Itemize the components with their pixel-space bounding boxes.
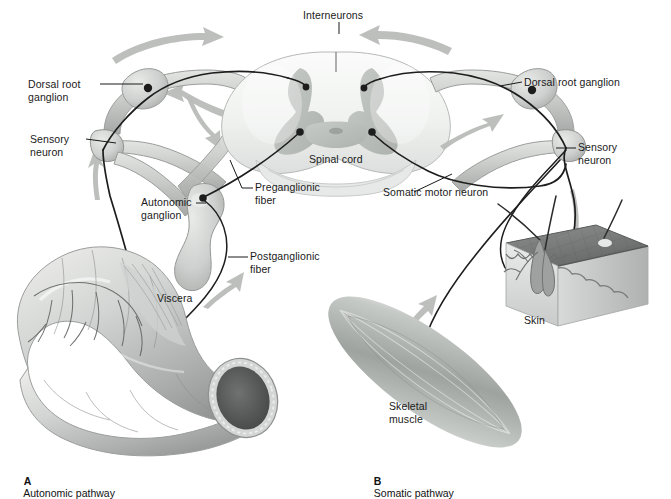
label-postganglionic-fiber: Postganglionic fiber: [250, 250, 320, 275]
label-somatic-motor-neuron: Somatic motor neuron: [383, 186, 488, 199]
spinal-nerve-sheath-left: [90, 69, 246, 216]
viscera-intestine: [17, 247, 287, 456]
panel-letter-a: A: [24, 475, 32, 487]
label-sensory-neuron-right: Sensory neuron: [578, 141, 617, 166]
label-autonomic-ganglion: Autonomic ganglion: [141, 196, 192, 221]
label-skin: Skin: [524, 314, 545, 327]
label-dorsal-root-ganglion-left: Dorsal root ganglion: [28, 78, 80, 103]
skin-block: [498, 196, 648, 326]
label-viscera: Viscera: [157, 292, 193, 305]
panel-caption-b: B Somatic pathway: [368, 463, 454, 499]
label-dorsal-root-ganglion-right: Dorsal root ganglion: [524, 76, 620, 89]
label-interneurons: Interneurons: [303, 9, 363, 22]
panel-caption-a: A Autonomic pathway: [18, 463, 115, 499]
label-sensory-neuron-left: Sensory neuron: [30, 133, 69, 158]
panel-caption-a-text: Autonomic pathway: [23, 487, 115, 499]
panel-letter-b: B: [374, 475, 382, 487]
panel-caption-b-text: Somatic pathway: [374, 487, 454, 499]
label-skeletal-muscle: Skeletal muscle: [389, 400, 427, 425]
label-preganglionic-fiber: Preganglionic fiber: [255, 181, 320, 206]
label-spinal-cord: Spinal cord: [309, 153, 363, 166]
